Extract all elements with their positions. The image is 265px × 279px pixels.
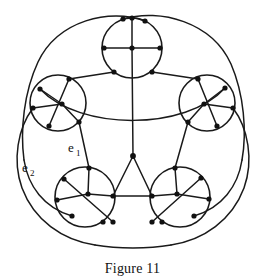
lobe-br-chord-b	[175, 168, 177, 194]
vertex	[222, 85, 227, 90]
vertex	[129, 15, 134, 20]
vertex	[191, 213, 196, 218]
outer-arc-5	[95, 245, 171, 248]
vertex	[159, 219, 164, 224]
lobe-bl-chord-c	[57, 194, 88, 200]
edge-top-to-right	[152, 72, 198, 79]
vertex	[86, 165, 91, 170]
label-e1-base: e	[68, 140, 74, 155]
vertex	[85, 191, 90, 196]
edge-right-to-bottomright	[175, 122, 188, 168]
vertex	[110, 193, 115, 198]
vertex	[69, 213, 74, 218]
vertex	[149, 219, 154, 224]
vertex	[76, 119, 81, 124]
lobe-left-chord-c	[62, 104, 79, 122]
lobe-top-stem	[132, 18, 133, 156]
vertex	[174, 191, 179, 196]
lobe-top	[102, 18, 162, 156]
label-e1-subscript: 1	[76, 148, 81, 158]
lobe-left-chord-b	[40, 89, 62, 104]
vertex	[206, 196, 211, 201]
vertex	[66, 76, 71, 81]
vertex	[111, 69, 116, 74]
vertex	[100, 219, 105, 224]
vertex	[110, 219, 115, 224]
label-e2-subscript: 2	[30, 168, 35, 178]
outer-arc-7	[194, 160, 242, 216]
vertex	[54, 197, 59, 202]
vertex	[172, 165, 177, 170]
edge-hub-to-bottomright	[133, 156, 152, 196]
edge-top-to-left	[69, 72, 114, 79]
vertex	[59, 101, 64, 106]
vertex	[46, 123, 51, 128]
lobe-bottom-left	[55, 167, 115, 227]
vertex	[129, 45, 134, 50]
lobe-right-chord-b	[204, 88, 225, 104]
figure-caption: Figure 11	[0, 261, 265, 277]
graph-diagram: e 1 e 2	[0, 0, 265, 250]
vertex	[30, 105, 35, 110]
lobe-br-chord-d	[152, 194, 177, 196]
vertex	[185, 119, 190, 124]
vertex	[149, 69, 154, 74]
vertex	[37, 86, 42, 91]
lobe-bl-chord-b	[88, 168, 89, 194]
vertex	[198, 175, 203, 180]
vertex	[142, 18, 147, 23]
vertex	[149, 193, 154, 198]
vertex	[101, 45, 106, 50]
vertex	[120, 16, 125, 21]
edge-e1-left-to-bottomleft	[79, 122, 89, 168]
vertex	[157, 45, 162, 50]
lobe-right-chord-a	[198, 79, 217, 126]
vertex-hub	[130, 153, 136, 159]
lobe-bl-chord-d	[88, 194, 113, 196]
edge-hub-to-bottomleft	[113, 156, 133, 196]
figure-container: e 1 e 2 Figure 11	[0, 0, 265, 279]
vertex	[201, 101, 206, 106]
edge-labels: e 1 e 2	[22, 140, 81, 178]
lobe-right-chord-c	[188, 104, 204, 122]
label-e2-base: e	[22, 160, 28, 175]
lobe-br-chord-c	[177, 194, 209, 199]
vertex	[214, 123, 219, 128]
vertex	[230, 105, 235, 110]
vertex	[61, 176, 66, 181]
vertex	[195, 76, 200, 81]
